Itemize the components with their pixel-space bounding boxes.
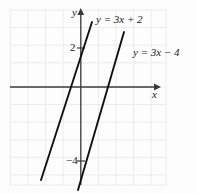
y-axis-arrow-icon bbox=[77, 8, 84, 15]
y-tick-label-2: 2 bbox=[70, 42, 76, 53]
graph-figure: y = 3x + 2 y = 3x − 4 y x 2 −4 bbox=[0, 0, 197, 194]
plotted-lines bbox=[41, 22, 124, 190]
equation-label-line-1: y = 3x + 2 bbox=[96, 14, 143, 25]
x-axis-label: x bbox=[152, 89, 157, 100]
line-y-equals-3x-minus-4 bbox=[78, 32, 124, 190]
y-tick-label-minus-4: −4 bbox=[66, 155, 78, 166]
equation-1-text: y = 3x + 2 bbox=[96, 13, 143, 25]
y-axis-label: y bbox=[72, 7, 77, 18]
equation-2-text: y = 3x − 4 bbox=[133, 46, 180, 58]
coordinate-plane-svg bbox=[0, 0, 197, 194]
equation-label-line-2: y = 3x − 4 bbox=[133, 47, 180, 58]
